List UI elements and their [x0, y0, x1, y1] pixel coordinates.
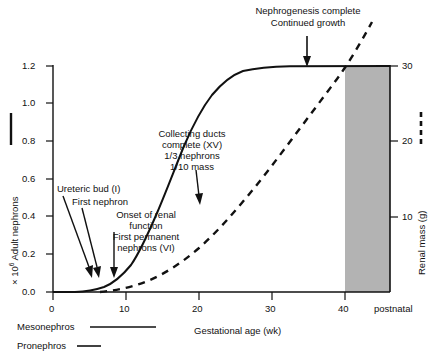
- arrow-nephrogenesis-complete: [303, 36, 311, 67]
- left-axis-title-text: × 106 Adult nephrons: [9, 197, 20, 285]
- nephron-development-chart: 1.2 1.0 0.8 0.6 0.4 0.2 0.0 30 20 10 0 1…: [0, 0, 432, 357]
- left-ytick-0_8: 0.8: [22, 135, 35, 146]
- right-ytick-30: 30: [402, 60, 413, 71]
- annotation-nephrogenesis-complete-line2: Continued growth: [228, 17, 388, 28]
- left-ytick-0_4: 0.4: [22, 210, 35, 221]
- xtick-postnatal: postnatal: [374, 303, 413, 314]
- left-axis-title: × 106 Adult nephrons: [6, 197, 20, 285]
- left-ytick-0_6: 0.6: [22, 173, 35, 184]
- xtick-30: 30: [265, 303, 276, 314]
- annotation-onset-renal-function-line1: Onset of renal: [84, 209, 208, 220]
- xtick-0: 0: [49, 303, 54, 314]
- annotation-collecting-ducts-line1: Collecting ducts: [136, 128, 248, 139]
- xtick-40: 40: [338, 303, 349, 314]
- right-ytick-10: 10: [402, 211, 413, 222]
- left-axis-ticks: [46, 66, 53, 292]
- annotation-onset-renal-function-line3: First permanent: [84, 231, 208, 242]
- annotation-nephrogenesis-complete-line1: Nephrogenesis complete: [228, 5, 388, 16]
- postnatal-band: [345, 66, 390, 292]
- xtick-20: 20: [192, 303, 203, 314]
- x-axis-ticks: [53, 292, 345, 300]
- annotation-collecting-ducts-line2: complete (XV): [136, 139, 248, 150]
- annotation-onset-renal-function-line4: nephrons (VI): [84, 242, 208, 253]
- annotation-first-nephron: First nephron: [72, 196, 128, 207]
- chart-canvas: [0, 0, 432, 357]
- annotation-ureteric-bud: Ureteric bud (I): [57, 183, 120, 194]
- mesonephros-legend-label: Mesonephros: [17, 321, 75, 332]
- left-ytick-1_0: 1.0: [22, 97, 35, 108]
- arrow-collecting-ducts: [195, 170, 203, 205]
- right-axis-title: Renal mass (g): [416, 211, 427, 275]
- x-axis-title: Gestational age (wk): [194, 325, 281, 336]
- series-adult-nephrons: [53, 66, 390, 292]
- left-ytick-0_2: 0.2: [22, 248, 35, 259]
- annotation-onset-renal-function-line2: function: [84, 220, 208, 231]
- right-axis-ticks: [390, 66, 398, 217]
- xtick-10: 10: [119, 303, 130, 314]
- left-ytick-0_0: 0.0: [22, 286, 35, 297]
- annotation-collecting-ducts-line4: 1/10 mass: [136, 161, 248, 172]
- annotation-collecting-ducts-line3: 1/3 nephrons: [136, 150, 248, 161]
- right-ytick-20: 20: [402, 135, 413, 146]
- pronephros-legend-label: Pronephros: [17, 340, 66, 351]
- left-ytick-1_2: 1.2: [22, 60, 35, 71]
